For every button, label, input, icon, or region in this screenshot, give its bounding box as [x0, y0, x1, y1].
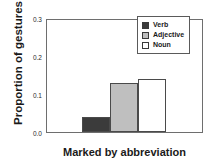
y-axis-tick-label: 0.3: [24, 16, 42, 23]
legend-item: Adjective: [142, 30, 184, 40]
legend-label: Verb: [153, 21, 168, 29]
legend-label: Adjective: [153, 31, 184, 39]
legend-item: Verb: [142, 20, 184, 30]
x-axis-title: Marked by abbreviation: [46, 146, 203, 158]
chart-legend: VerbAdjectiveNoun: [137, 16, 190, 54]
bar-chart-figure: Proportion of gestures 0.00.10.20.3 Verb…: [0, 0, 215, 167]
legend-label: Noun: [153, 41, 171, 49]
legend-swatch-icon: [142, 42, 149, 49]
y-axis-tick-label: 0.2: [24, 54, 42, 61]
legend-swatch-icon: [142, 22, 149, 29]
bar-verb: [82, 117, 110, 132]
bar-adjective: [110, 83, 138, 132]
legend-swatch-icon: [142, 32, 149, 39]
y-axis-tick-label: 0.1: [24, 92, 42, 99]
y-axis-title: Proportion of gestures: [12, 0, 24, 128]
bar-noun: [138, 79, 166, 132]
y-axis-tick-label: 0.0: [24, 130, 42, 137]
legend-item: Noun: [142, 40, 184, 50]
